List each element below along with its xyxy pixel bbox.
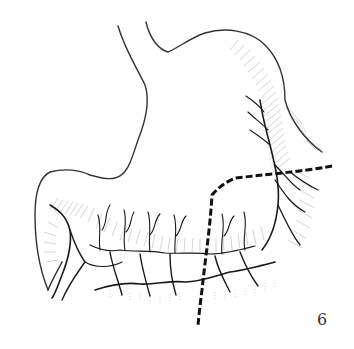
figure-number: 6: [317, 312, 327, 328]
vessels: [50, 96, 318, 300]
stomach-illustration: [0, 0, 354, 349]
